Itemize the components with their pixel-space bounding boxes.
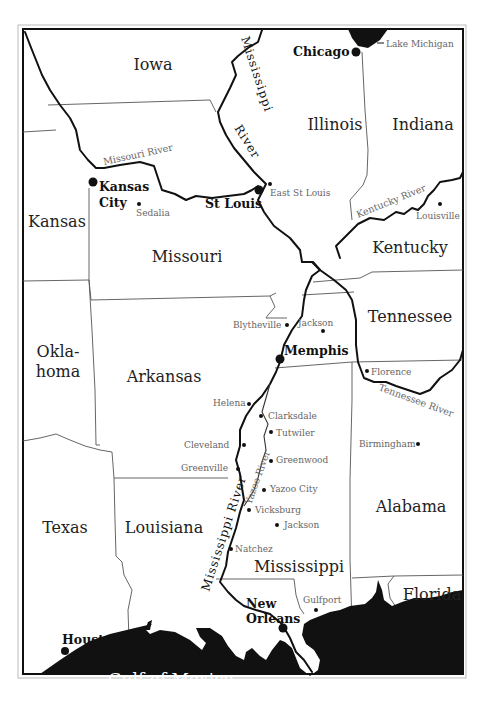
label-helena: Helena	[213, 398, 246, 408]
state-indiana: Indiana	[392, 115, 454, 134]
state-alabama: Alabama	[375, 497, 447, 516]
state-arkansas: Arkansas	[126, 367, 202, 386]
state-kansas: Kansas	[28, 212, 86, 231]
label-new-orleans-1: New	[246, 596, 277, 611]
label-memphis: Memphis	[284, 343, 349, 358]
label-louisville: Louisville	[416, 211, 460, 221]
label-east-st-louis: East St Louis	[270, 188, 331, 198]
label-clarksdale: Clarksdale	[268, 411, 317, 421]
state-kentucky: Kentucky	[372, 238, 448, 257]
state-missouri: Missouri	[152, 247, 223, 266]
map: Iowa Illinois Indiana Kansas Missouri Ke…	[0, 0, 484, 727]
label-florence: Florence	[371, 367, 411, 377]
label-st-louis: St Louis	[205, 196, 262, 211]
label-chicago: Chicago	[293, 44, 350, 59]
state-florida: Florida	[403, 585, 462, 604]
label-gulfport: Gulfport	[303, 595, 342, 605]
state-texas: Texas	[42, 518, 88, 537]
label-yazoo-city: Yazoo City	[269, 484, 318, 494]
label-cleveland: Cleveland	[184, 440, 230, 450]
label-birmingham: Birmingham	[359, 439, 416, 449]
state-mississippi: Mississippi	[254, 557, 344, 576]
label-lake-michigan: Lake Michigan	[386, 39, 454, 49]
label-jackson-ms: Jackson	[283, 520, 320, 530]
label-greenwood: Greenwood	[276, 455, 328, 465]
label-jackson-tn: Jackson	[297, 318, 334, 328]
label-gulf-of-mexico: Gulf of Mexico	[108, 669, 234, 689]
label-new-orleans-2: Orleans	[246, 611, 300, 626]
st-louis-dot	[255, 186, 264, 195]
label-houston: Houston	[62, 632, 121, 647]
label-vicksburg: Vicksburg	[254, 505, 301, 515]
label-tutwiler: Tutwiler	[276, 428, 315, 438]
chicago-dot	[352, 48, 361, 57]
label-sedalia: Sedalia	[136, 208, 170, 218]
label-greenville: Greenville	[181, 463, 228, 473]
label-blytheville: Blytheville	[233, 320, 281, 330]
state-iowa: Iowa	[133, 55, 173, 74]
state-illinois: Illinois	[308, 115, 363, 134]
kansas-city-dot	[89, 178, 98, 187]
state-louisiana: Louisiana	[125, 518, 204, 537]
state-oklahoma-2: homa	[36, 362, 81, 381]
label-kansas-city-1: Kansas	[99, 179, 149, 194]
label-natchez: Natchez	[235, 544, 273, 554]
state-oklahoma-1: Okla-	[37, 342, 80, 361]
houston-dot	[61, 647, 69, 655]
state-tennessee: Tennessee	[368, 307, 452, 326]
label-kansas-city-2: City	[99, 195, 127, 210]
